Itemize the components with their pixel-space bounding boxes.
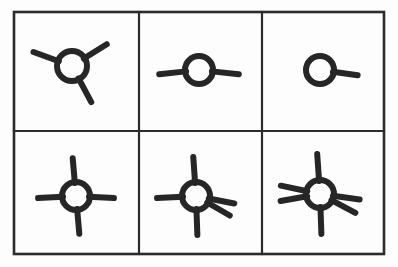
grid-cell-3[interactable]: one-ray symbol [262, 12, 384, 131]
grid-cell-6[interactable]: six-ray symbol [262, 131, 384, 254]
cell-hit-layer: three-ray symboltwo-ray symbolone-ray sy… [14, 12, 384, 254]
grid-cell-5[interactable]: five-ray symbol [139, 131, 262, 254]
grid-cell-2[interactable]: two-ray symbol [139, 12, 262, 131]
symbol-grid-diagram: three-ray symboltwo-ray symbolone-ray sy… [0, 0, 398, 267]
figure-root: three-ray symboltwo-ray symbolone-ray sy… [0, 0, 398, 267]
grid-cell-1[interactable]: three-ray symbol [14, 12, 139, 131]
grid-cell-4[interactable]: four-ray symbol [14, 131, 139, 254]
